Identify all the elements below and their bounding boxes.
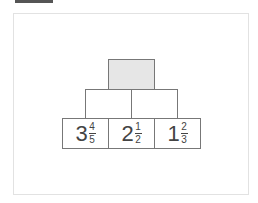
pyramid-top-cell: [108, 59, 155, 90]
fraction: 4 5: [89, 122, 96, 145]
pyramid-bottom-cell-3: 1 2 3: [154, 118, 201, 149]
denominator: 5: [89, 135, 95, 145]
pyramid-middle-cell-2: [131, 89, 178, 119]
denominator: 3: [181, 135, 187, 145]
fraction: 2 3: [181, 122, 188, 145]
numerator: 1: [135, 122, 141, 132]
pyramid-bottom-cell-1: 3 4 5: [62, 118, 109, 149]
numerator: 4: [89, 122, 95, 132]
header-tag-bar: [15, 0, 53, 3]
numerator: 2: [181, 122, 187, 132]
whole-number: 1: [167, 123, 179, 145]
fraction: 1 2: [135, 122, 142, 145]
whole-number: 3: [75, 123, 87, 145]
pyramid-bottom-cell-2: 2 1 2: [108, 118, 155, 149]
pyramid-middle-cell-1: [85, 89, 132, 119]
whole-number: 2: [121, 123, 133, 145]
denominator: 2: [135, 135, 141, 145]
